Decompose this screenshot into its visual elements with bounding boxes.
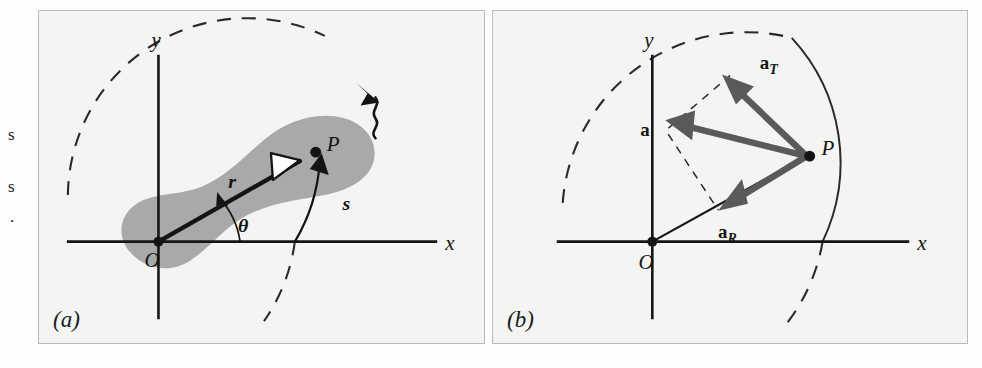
origin-label: O xyxy=(638,250,653,274)
panel-b-caption: (b) xyxy=(507,307,534,333)
figure-root: s s . y x xyxy=(0,0,982,368)
margin-text-fragment-1: s xyxy=(8,126,15,143)
reference-circle-dashed-lower xyxy=(788,242,823,323)
origin-dot xyxy=(153,237,163,247)
margin-text-fragment-2: s xyxy=(8,178,15,195)
arclength-s-label: s xyxy=(342,192,351,214)
origin-label: O xyxy=(145,248,160,272)
reference-circle-dashed-lower xyxy=(264,242,295,322)
rotation-sense-squiggle xyxy=(373,97,377,138)
point-p-label: P xyxy=(821,136,835,160)
vector-a-radial-arrowhead xyxy=(718,179,748,211)
origin-dot xyxy=(647,237,657,247)
construction-line-to-aR xyxy=(668,134,718,210)
x-axis-label: x xyxy=(444,231,455,255)
y-axis-label: y xyxy=(642,28,654,52)
margin-text-fragment-3: . xyxy=(10,208,14,225)
tangential-accel-subscript: T xyxy=(769,62,778,77)
point-p-label: P xyxy=(326,132,340,156)
vector-a-radial xyxy=(740,156,807,197)
radius-label: r xyxy=(228,170,236,192)
total-accel-symbol: a xyxy=(640,119,650,140)
point-p-dot xyxy=(310,147,321,158)
panel-a-drawing: y x O P r θ xyxy=(39,11,484,343)
y-axis-label: y xyxy=(149,28,161,52)
point-p-dot xyxy=(804,151,815,162)
angle-theta-label: θ xyxy=(238,214,248,236)
panel-b-drawing: y x O P xyxy=(493,11,967,343)
total-accel-label: a xyxy=(640,119,650,140)
panel-b: y x O P xyxy=(492,10,968,344)
tangential-accel-label: aT xyxy=(760,52,778,77)
panel-a-caption: (a) xyxy=(53,307,80,333)
x-axis-label: x xyxy=(916,231,927,255)
panel-a: y x O P r θ xyxy=(38,10,485,344)
radial-accel-subscript: R xyxy=(727,231,737,246)
rotation-sense-arrowhead xyxy=(356,83,380,106)
